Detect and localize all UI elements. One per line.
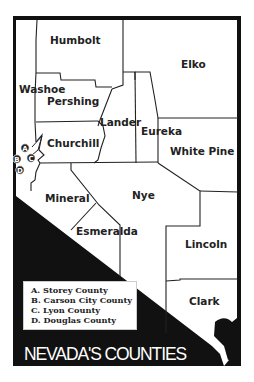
map-legend: A. Storey County B. Carson City County C… xyxy=(23,281,137,330)
county-label-pershing: Pershing xyxy=(47,95,99,107)
county-label-lander: Lander xyxy=(100,116,142,128)
svg-text:A: A xyxy=(22,145,28,153)
county-label-clark: Clark xyxy=(189,295,221,307)
county-label-washoe: Washoe xyxy=(19,83,65,95)
county-label-churchill: Churchill xyxy=(47,137,99,149)
county-label-esmeralda: Esmeralda xyxy=(76,225,138,237)
legend-item-lyon: C. Lyon County xyxy=(31,305,136,315)
legend-item-storey: A. Storey County xyxy=(31,285,136,295)
svg-text:D: D xyxy=(17,167,23,175)
county-label-eureka: Eureka xyxy=(141,125,182,137)
svg-text:B: B xyxy=(14,156,19,164)
county-label-mineral: Mineral xyxy=(45,192,90,204)
county-label-nye: Nye xyxy=(132,189,155,201)
legend-item-carson-city: B. Carson City County xyxy=(31,295,136,305)
county-label-humbolt: Humbolt xyxy=(50,34,101,46)
map-title: NEVADA'S COUNTIES xyxy=(24,343,186,365)
county-label-lincoln: Lincoln xyxy=(185,238,227,250)
county-label-white-pine: White Pine xyxy=(170,145,234,157)
legend-item-douglas: D. Douglas County xyxy=(31,315,136,325)
county-label-elko: Elko xyxy=(181,58,206,70)
svg-text:C: C xyxy=(28,155,33,163)
